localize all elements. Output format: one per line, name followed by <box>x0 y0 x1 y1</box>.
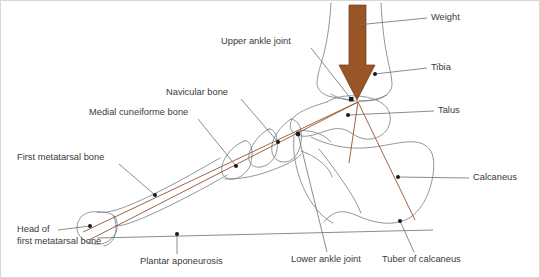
dot-plantar-aponeurosis <box>175 232 179 236</box>
calcaneus-internal-line <box>319 149 361 213</box>
lever-lines <box>83 102 415 240</box>
label-weight: Weight <box>431 12 460 22</box>
leader-talus <box>348 111 434 115</box>
leader-first-metatarsal <box>119 164 155 195</box>
leader-head-first-metatarsal <box>58 226 90 230</box>
leader-tibia <box>375 68 427 74</box>
weight-arrow-shape <box>339 5 375 100</box>
label-medial-cuneiforme-bone: Medial cuneiforme bone <box>89 107 188 117</box>
label-talus: Talus <box>438 105 460 115</box>
dot-lower-ankle-joint <box>296 132 301 137</box>
plantar-aponeurosis-line <box>97 230 433 238</box>
label-head-of-first-metatarsal-line1: Head of <box>17 224 50 234</box>
anterior-lever-line-upper <box>89 102 358 240</box>
calcaneus-outline <box>311 137 434 223</box>
label-first-metatarsal-bone: First metatarsal bone <box>17 152 104 162</box>
dot-first-metatarsal <box>153 193 157 197</box>
diagram-canvas: Weight Tibia Talus Calcaneus Upper ankle… <box>1 1 540 278</box>
dot-talus <box>346 113 350 117</box>
leader-medial-cuneiforme <box>198 119 236 166</box>
tibia-outline-left <box>317 3 353 100</box>
label-plantar-aponeurosis: Plantar aponeurosis <box>140 256 223 266</box>
medial-cuneiforme-outline <box>222 141 252 179</box>
dot-head-first-metatarsal <box>88 224 92 228</box>
leader-weight <box>357 18 427 25</box>
dot-calcaneus <box>396 175 400 179</box>
label-head-of-first-metatarsal-line2: first metatarsal bone <box>17 236 101 246</box>
label-tuber-of-calcaneus: Tuber of calcaneus <box>382 254 461 264</box>
leader-calcaneus <box>398 177 469 178</box>
label-calcaneus: Calcaneus <box>473 172 517 182</box>
foot-anatomy-diagram: Weight Tibia Talus Calcaneus Upper ankle… <box>0 0 540 278</box>
dot-navicular <box>276 140 280 144</box>
intermediate-tarsal-outline <box>249 129 278 167</box>
label-upper-ankle-joint: Upper ankle joint <box>221 36 291 46</box>
dot-tibia <box>373 72 377 76</box>
label-tibia: Tibia <box>431 62 452 72</box>
label-lower-ankle-joint: Lower ankle joint <box>291 254 361 264</box>
weight-arrow <box>339 5 375 100</box>
leader-tuber-of-calcaneus <box>400 221 414 252</box>
talus-outline <box>290 96 390 139</box>
dot-upper-ankle-joint <box>349 97 354 102</box>
posterior-lever-line <box>358 102 415 220</box>
anterior-lever-line-lower <box>83 102 358 232</box>
diagram-labels: Weight Tibia Talus Calcaneus Upper ankle… <box>17 12 517 266</box>
leader-lower-ankle-joint <box>298 134 327 252</box>
label-navicular-bone: Navicular bone <box>166 87 228 97</box>
dot-medial-cuneiforme <box>234 164 238 168</box>
dot-tuber-of-calcaneus <box>398 219 402 223</box>
